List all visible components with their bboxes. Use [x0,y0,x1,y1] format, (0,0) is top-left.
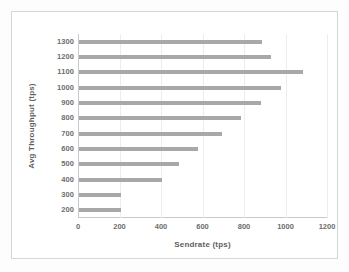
x-tick-label: 400 [155,222,168,231]
bar [79,147,198,151]
y-tick-label: 800 [40,114,74,122]
bar [79,208,121,212]
bar [79,116,241,120]
y-tick-label: 900 [40,99,74,107]
bar [79,193,121,197]
bar [79,132,222,136]
bar-row [79,51,328,63]
x-tick-label: 0 [76,222,80,231]
chart-frame: Avg Throughput (tps) 1300120011001000900… [11,11,338,259]
x-tick-label: 1000 [277,222,294,231]
bar-row [79,143,328,155]
y-tick-label: 700 [40,130,74,138]
y-tick-label: 400 [40,176,74,184]
y-tick-label: 1200 [40,53,74,61]
bar-row [79,204,328,216]
bar [79,162,179,166]
bar [79,86,281,90]
x-axis-title: Sendrate (tps) [78,240,327,249]
y-tick-label: 1100 [40,68,74,76]
bar-row [79,82,328,94]
x-tick-label: 1200 [319,222,336,231]
y-tick-label: 600 [40,145,74,153]
y-axis-ticks: 1300120011001000900800700600500400300200 [36,34,74,218]
bar-row [79,158,328,170]
x-tick-label: 200 [113,222,126,231]
bar-row [79,189,328,201]
bar-row [79,97,328,109]
y-tick-label: 1000 [40,84,74,92]
bar-row [79,128,328,140]
y-tick-label: 500 [40,160,74,168]
bar [79,70,303,74]
bar [79,55,271,59]
chart-figure: Avg Throughput (tps) 1300120011001000900… [0,0,349,272]
y-axis-title-text: Avg Throughput (tps) [27,83,36,168]
bar-row [79,174,328,186]
bar-row [79,112,328,124]
bar-row [79,66,328,78]
bar [79,178,162,182]
x-axis-ticks: 020040060080010001200 [78,222,327,234]
bar [79,101,261,105]
y-tick-label: 300 [40,191,74,199]
bar [79,40,262,44]
x-tick-label: 800 [238,222,251,231]
plot-area [78,34,327,218]
y-tick-label: 200 [40,206,74,214]
bar-row [79,36,328,48]
y-tick-label: 1300 [40,38,74,46]
x-tick-label: 600 [196,222,209,231]
